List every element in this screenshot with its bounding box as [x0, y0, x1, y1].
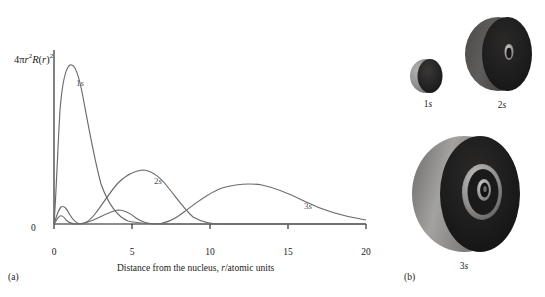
panel-a-tag: (a) [8, 272, 19, 282]
orbital-2s: 2s [462, 10, 542, 102]
x-tick-0: 0 [44, 247, 64, 257]
curve-label-3s: 3s [304, 201, 312, 211]
y-tick-0: 0 [31, 223, 36, 233]
x-tick-5: 5 [122, 247, 142, 257]
orbital-3s-render [408, 128, 532, 260]
radial-distribution-curves [48, 48, 368, 230]
curve-label-2s: 2s [154, 176, 162, 186]
curve-1s [54, 65, 366, 224]
orbital-3s: 3s [408, 128, 532, 264]
panel-b-orbitals: 1s [390, 0, 545, 297]
curve-label-1s: 1s [76, 78, 84, 88]
x-tick-marks [54, 224, 366, 229]
x-tick-15: 15 [278, 247, 298, 257]
orbital-1s: 1s [408, 55, 448, 101]
x-tick-20: 20 [356, 247, 376, 257]
curve-2s [54, 170, 366, 224]
orbital-1s-caption: 1s [398, 99, 458, 109]
orbital-2s-caption: 2s [472, 100, 532, 110]
orbital-3s-caption: 3s [434, 261, 494, 271]
panel-b-tag: (b) [404, 272, 415, 282]
plot-area [48, 48, 368, 230]
panel-a-plot: 4πr2R(r)2 0 0 5 10 15 20 [0, 0, 390, 297]
curve-3s [54, 184, 366, 224]
x-axis-label: Distance from the nucleus, r/atomic unit… [117, 263, 274, 273]
x-tick-10: 10 [200, 247, 220, 257]
orbital-2s-render [462, 10, 542, 98]
orbital-1s-render [408, 55, 448, 97]
